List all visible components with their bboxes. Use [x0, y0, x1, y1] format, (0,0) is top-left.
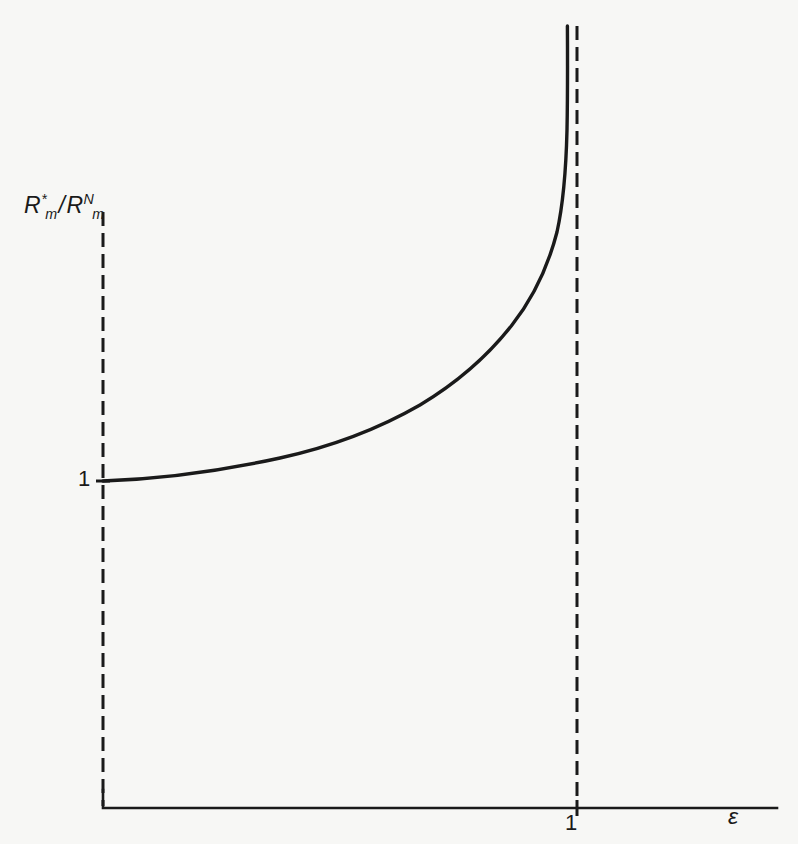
y-label-denominator-symbol: R	[66, 192, 83, 218]
y-axis-label: R*m/RNm	[24, 192, 105, 219]
y-label-denominator-subscript: m	[92, 206, 104, 222]
figure-container: R*m/RNm ε 1 1	[0, 0, 798, 844]
y-label-numerator-subscript: m	[45, 206, 57, 222]
y-label-numerator-symbol: R	[24, 192, 41, 218]
y-label-denominator-superscript: N	[84, 191, 95, 207]
y-tick-label-1: 1	[78, 466, 90, 492]
x-axis-line	[103, 790, 777, 808]
y-label-numerator-superscript: *	[41, 191, 47, 207]
plot-canvas	[0, 0, 798, 844]
data-curve	[103, 26, 568, 481]
x-tick-label-1: 1	[565, 810, 577, 836]
x-axis	[103, 790, 777, 808]
x-axis-label: ε	[728, 803, 738, 830]
